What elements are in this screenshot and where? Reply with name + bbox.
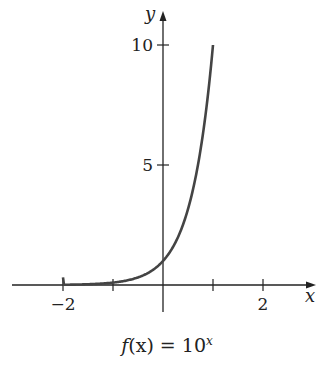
caption-arg: (x)	[128, 334, 154, 356]
caption-eq: = 10	[154, 334, 206, 356]
x-tick-label-2: 2	[258, 294, 269, 314]
y-axis-arrow-icon	[160, 11, 167, 21]
y-axis-label: y	[144, 3, 156, 24]
chart: −2 2 10 5 x y	[0, 0, 334, 373]
function-caption: f(x) = 10x	[0, 334, 334, 356]
caption-exp: x	[206, 334, 213, 348]
y-tick-label-10: 10	[131, 35, 153, 55]
y-tick-label-5: 5	[142, 155, 153, 175]
x-tick-label-neg2: −2	[50, 294, 75, 314]
x-axis-label: x	[305, 285, 315, 306]
curve-10-pow-x	[63, 45, 213, 285]
